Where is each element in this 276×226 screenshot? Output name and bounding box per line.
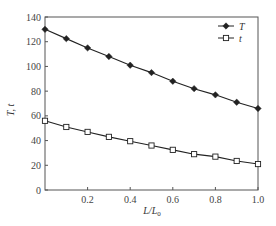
y-tick-label: 140 xyxy=(26,12,41,23)
data-point xyxy=(63,35,69,41)
data-point xyxy=(255,161,260,166)
data-point xyxy=(106,134,111,139)
y-axis-label: T, t xyxy=(5,103,16,116)
data-point xyxy=(170,78,176,84)
series-line xyxy=(45,29,258,108)
data-point xyxy=(64,124,69,129)
data-point xyxy=(234,158,239,163)
x-axis-label-main: L/L xyxy=(142,205,157,216)
data-point xyxy=(149,143,154,148)
legend-item-t: t xyxy=(218,33,242,44)
y-tick-label: 80 xyxy=(31,86,41,97)
data-point xyxy=(42,26,48,32)
y-tick-label: 0 xyxy=(36,185,41,196)
data-point xyxy=(255,105,261,111)
data-point xyxy=(127,62,133,68)
data-point xyxy=(192,152,197,157)
legend: Tt xyxy=(218,21,246,44)
x-axis-label: L/L0 xyxy=(142,205,161,218)
data-point xyxy=(106,53,112,59)
legend-item-T: T xyxy=(218,21,246,32)
legend-label: T xyxy=(239,21,246,32)
x-axis-label-sub: 0 xyxy=(157,210,161,218)
legend-label: t xyxy=(239,33,242,44)
data-point xyxy=(234,99,240,105)
legend-marker xyxy=(223,35,228,40)
x-tick-label: 0.6 xyxy=(167,194,180,205)
y-tick-label: 60 xyxy=(31,110,41,121)
y-tick-label: 100 xyxy=(26,61,41,72)
data-point xyxy=(85,129,90,134)
line-chart: 020406080100120140 0.20.40.60.81.0 Tt T,… xyxy=(0,0,276,226)
data-point xyxy=(213,154,218,159)
x-tick-label: 1.0 xyxy=(252,194,265,205)
data-point xyxy=(191,85,197,91)
series-t xyxy=(42,118,260,166)
x-tick-label: 0.4 xyxy=(124,194,137,205)
x-tick-label: 0.8 xyxy=(209,194,222,205)
data-point xyxy=(128,139,133,144)
legend-marker xyxy=(223,23,229,29)
y-tick-label: 120 xyxy=(26,36,41,47)
y-tick-label: 40 xyxy=(31,135,41,146)
data-point xyxy=(84,45,90,51)
data-point xyxy=(148,69,154,75)
y-tick-label: 20 xyxy=(31,160,41,171)
data-point xyxy=(212,92,218,98)
x-tick-label: 0.2 xyxy=(81,194,94,205)
data-point xyxy=(170,147,175,152)
data-point xyxy=(42,118,47,123)
series-layer xyxy=(42,26,261,166)
series-line xyxy=(45,121,258,164)
